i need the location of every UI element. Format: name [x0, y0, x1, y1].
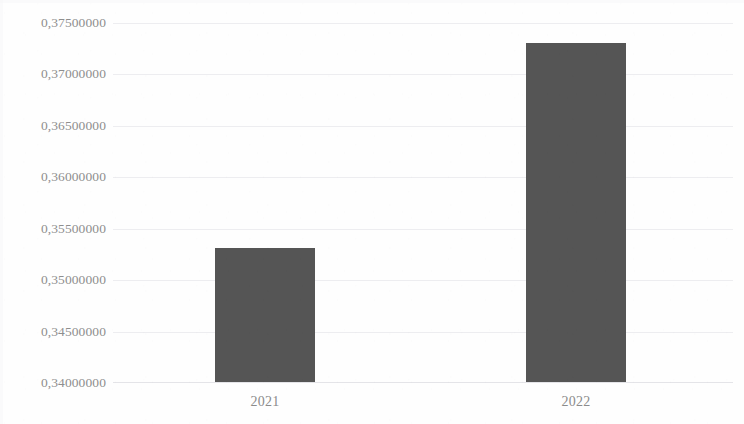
y-tick-label: 0,37000000: [41, 66, 106, 82]
y-tick-label: 0,35000000: [41, 272, 106, 288]
bar-chart-figure: 0,37500000 0,37000000 0,36500000 0,36000…: [0, 0, 744, 424]
x-axis-baseline: [113, 382, 733, 383]
y-tick-label: 0,36000000: [41, 169, 106, 185]
y-tick-label: 0,34500000: [41, 324, 106, 340]
plot-area: [113, 23, 733, 383]
x-tick-label-2022: 2022: [526, 394, 626, 410]
y-axis-tick-labels: 0,37500000 0,37000000 0,36500000 0,36000…: [14, 0, 106, 424]
scan-edge-left: [0, 0, 3, 424]
gridline: [113, 23, 733, 24]
y-tick-label: 0,35500000: [41, 221, 106, 237]
gridline: [113, 177, 733, 178]
bar-2022: [526, 43, 626, 382]
bar-2021: [215, 248, 315, 382]
gridline: [113, 229, 733, 230]
gridline: [113, 332, 733, 333]
y-tick-label: 0,37500000: [41, 15, 106, 31]
gridline: [113, 74, 733, 75]
gridline: [113, 126, 733, 127]
x-tick-label-2021: 2021: [215, 394, 315, 410]
y-tick-label: 0,34000000: [41, 375, 106, 391]
y-tick-label: 0,36500000: [41, 118, 106, 134]
scan-edge-top: [0, 0, 744, 3]
gridline: [113, 280, 733, 281]
